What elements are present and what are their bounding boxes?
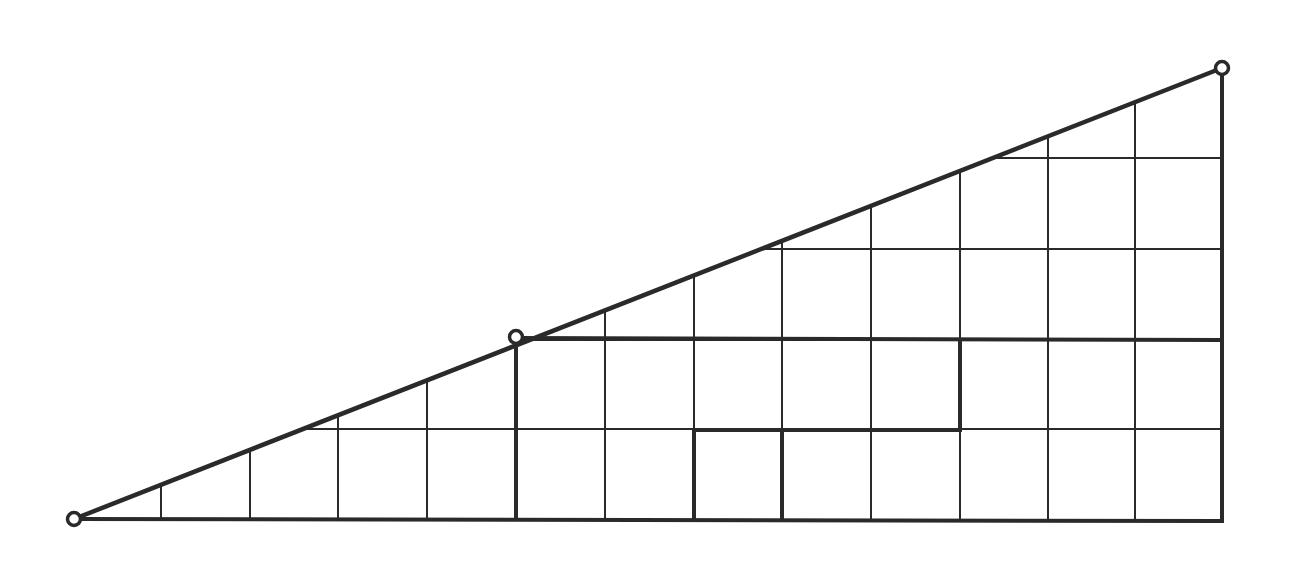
midpoint-vertex-circle-icon xyxy=(510,331,523,344)
bold-segment xyxy=(516,338,1222,340)
bold-segment xyxy=(74,519,1222,521)
hypotenuse-line xyxy=(74,68,1222,519)
bottom-left-vertex-circle-icon xyxy=(68,513,81,526)
triangle-grid-diagram xyxy=(0,0,1292,561)
top-right-vertex-circle-icon xyxy=(1216,62,1229,75)
grid-lines xyxy=(161,68,1222,519)
